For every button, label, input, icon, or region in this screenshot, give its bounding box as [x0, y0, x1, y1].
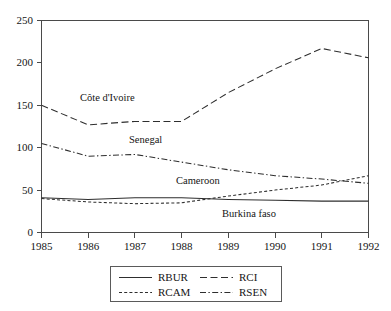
x-tick-label: 1992 — [358, 240, 380, 252]
x-tick-label: 1986 — [77, 240, 100, 252]
annotation-burkina-faso: Burkina faso — [222, 208, 276, 219]
legend-label-rsen: RSEN — [239, 286, 267, 298]
y-tick-label: 200 — [17, 56, 34, 68]
annotation-cote-divoire: Côte d'Ivoire — [80, 92, 135, 103]
annotation-cameroon: Cameroon — [176, 175, 220, 186]
x-tick-label: 1991 — [311, 240, 333, 252]
x-tick-label: 1985 — [31, 240, 54, 252]
legend-label-rci: RCI — [239, 271, 258, 283]
legend-label-rbur: RBUR — [158, 271, 189, 283]
legend-label-rcam: RCAM — [158, 286, 191, 298]
y-tick-label: 150 — [17, 99, 34, 111]
annotation-senegal: Senegal — [129, 134, 162, 145]
x-tick-label: 1989 — [217, 240, 240, 252]
y-tick-label: 50 — [22, 184, 34, 196]
line-chart: 250 200 150 100 50 0 1985 1986 1987 1988… — [0, 0, 391, 311]
x-tick-label: 1990 — [264, 240, 287, 252]
x-tick-label: 1988 — [171, 240, 194, 252]
chart-figure: 250 200 150 100 50 0 1985 1986 1987 1988… — [0, 0, 391, 311]
y-tick-label: 100 — [17, 141, 34, 153]
chart-background — [0, 0, 391, 311]
y-tick-label: 0 — [28, 226, 34, 238]
y-tick-label: 250 — [17, 14, 34, 26]
x-tick-label: 1987 — [124, 240, 147, 252]
